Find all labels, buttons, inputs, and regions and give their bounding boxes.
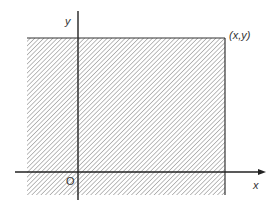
origin-label: O (66, 175, 75, 187)
corner-point-label: (x,y) (229, 29, 251, 41)
diagram-canvas: y x O (x,y) (0, 0, 278, 207)
x-axis-arrow-icon (258, 169, 266, 175)
y-axis-label: y (64, 15, 72, 27)
x-axis-label: x (252, 179, 259, 191)
